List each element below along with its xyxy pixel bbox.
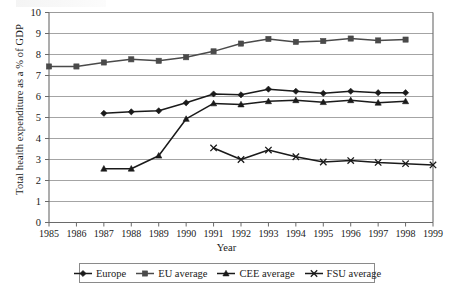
data-point-marker <box>183 100 189 106</box>
data-point-marker <box>156 108 162 114</box>
data-point-marker <box>211 49 216 54</box>
series-cee-average <box>101 97 409 171</box>
data-point-marker <box>376 38 381 43</box>
cross-marker-icon <box>304 268 324 279</box>
legend-item-fsu-average[interactable]: FSU average <box>304 268 382 279</box>
data-point-marker <box>293 39 298 44</box>
data-point-marker <box>402 90 408 96</box>
chart-figure: Total health expenditure as a % of GDP Y… <box>0 0 453 298</box>
data-point-marker <box>238 92 244 98</box>
data-point-marker <box>128 109 134 115</box>
data-point-marker <box>321 38 326 43</box>
data-point-marker <box>293 88 299 94</box>
legend-item-label: EU average <box>158 268 207 279</box>
legend-item-europe[interactable]: Europe <box>73 268 126 279</box>
series-eu-average <box>46 36 408 69</box>
data-point-marker <box>265 86 271 92</box>
series-fsu-average <box>210 145 436 168</box>
data-point-marker <box>80 270 86 276</box>
plot-area <box>0 0 453 298</box>
data-point-marker <box>46 64 51 69</box>
data-point-marker <box>184 55 189 60</box>
data-point-marker <box>143 270 148 275</box>
data-point-marker <box>101 60 106 65</box>
legend-item-eu-average[interactable]: EU average <box>135 268 207 279</box>
data-point-marker <box>129 57 134 62</box>
data-point-marker <box>403 37 408 42</box>
chart-legend: EuropeEU averageCEE averageFSU average <box>79 263 375 283</box>
legend-item-label: Europe <box>96 268 126 279</box>
diamond-marker-icon <box>73 268 93 279</box>
square-marker-icon <box>135 268 155 279</box>
data-point-marker <box>101 110 107 116</box>
data-point-marker <box>375 90 381 96</box>
data-point-marker <box>320 90 326 96</box>
data-point-marker <box>348 36 353 41</box>
data-point-marker <box>74 64 79 69</box>
legend-item-cee-average[interactable]: CEE average <box>216 268 294 279</box>
data-point-marker <box>266 36 271 41</box>
legend-item-label: CEE average <box>239 268 294 279</box>
data-point-marker <box>348 88 354 94</box>
legend-item-label: FSU average <box>327 268 382 279</box>
data-point-marker <box>156 58 161 63</box>
data-point-marker <box>210 145 216 151</box>
triangle-marker-icon <box>216 268 236 279</box>
data-point-marker <box>238 41 243 46</box>
